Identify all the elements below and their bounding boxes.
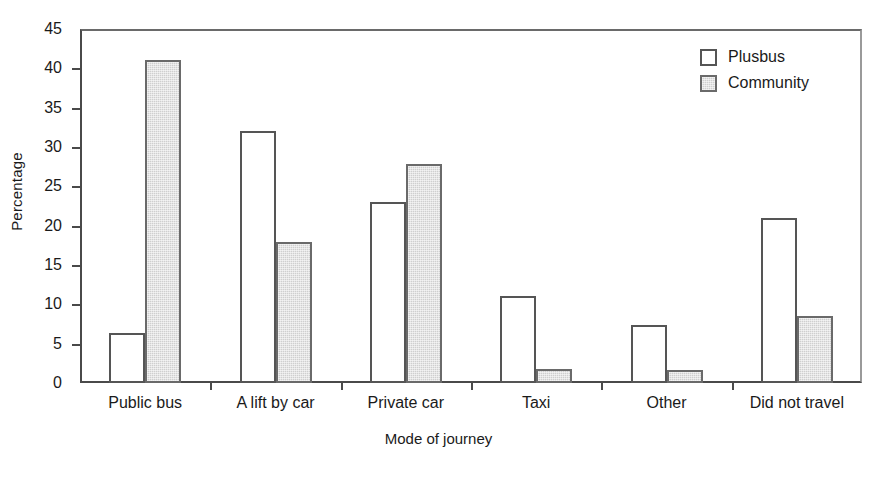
x-axis-tick	[341, 383, 343, 390]
bar-community-2	[406, 164, 442, 383]
bar-community-4	[667, 370, 703, 383]
x-axis-category-label: Private car	[368, 394, 444, 412]
y-axis-tick	[72, 344, 80, 346]
bar-plusbus-0	[109, 333, 145, 383]
bar-community-5	[797, 316, 833, 383]
y-axis-tick-label: 45	[22, 21, 62, 37]
y-axis-tick	[72, 147, 80, 149]
y-axis-tick	[72, 304, 80, 306]
x-axis-category-label: A lift by car	[236, 394, 314, 412]
y-axis-tick	[72, 186, 80, 188]
legend-swatch-icon	[700, 49, 717, 66]
y-axis-tick-label: 40	[22, 60, 62, 76]
x-axis-tick	[210, 383, 212, 390]
y-axis-tick	[72, 265, 80, 267]
bar-community-3	[536, 369, 572, 383]
y-axis-tick-label: 25	[22, 178, 62, 194]
y-axis-tick-label: 10	[22, 296, 62, 312]
y-axis-tick-label: 15	[22, 257, 62, 273]
y-axis-tick-label: 5	[22, 336, 62, 352]
y-axis-tick	[72, 226, 80, 228]
x-axis-title: Mode of journey	[0, 430, 877, 447]
x-axis-title-text: Mode of journey	[385, 430, 493, 447]
bar-plusbus-2	[370, 202, 406, 383]
bar-community-1	[276, 242, 312, 383]
y-axis-tick	[72, 68, 80, 70]
y-axis-tick-label: 20	[22, 218, 62, 234]
x-axis-tick	[732, 383, 734, 390]
bar-plusbus-1	[240, 131, 276, 383]
x-axis-tick	[601, 383, 603, 390]
legend-item-label: Plusbus	[728, 49, 785, 65]
bar-plusbus-4	[631, 325, 667, 383]
chart-legend: PlusbusCommunity	[700, 44, 809, 96]
x-axis-category-label: Public bus	[108, 394, 182, 412]
y-axis-tick-label: 35	[22, 100, 62, 116]
x-axis-tick	[471, 383, 473, 390]
x-axis-category-label: Other	[646, 394, 686, 412]
x-axis-category-label: Taxi	[522, 394, 550, 412]
legend-swatch-icon	[700, 75, 717, 92]
y-axis-tick-label: 30	[22, 139, 62, 155]
bar-chart: Percentage 051015202530354045 Public bus…	[0, 0, 877, 477]
bar-plusbus-3	[500, 296, 536, 383]
x-axis-category-label: Did not travel	[750, 394, 844, 412]
legend-item: Community	[700, 70, 809, 96]
y-axis-tick	[72, 108, 80, 110]
y-axis-tick-label: 0	[22, 375, 62, 391]
legend-item-label: Community	[728, 75, 809, 91]
bar-plusbus-5	[761, 218, 797, 383]
legend-item: Plusbus	[700, 44, 809, 70]
bar-community-0	[145, 60, 181, 383]
